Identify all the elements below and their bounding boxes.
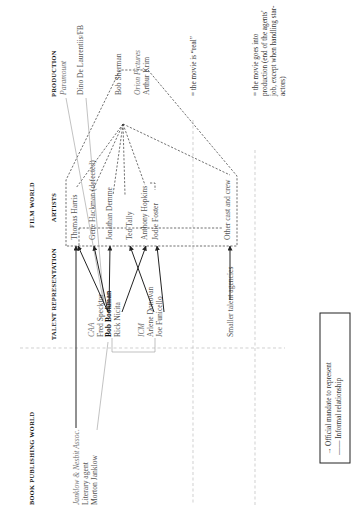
arthur-krim: Arthur Krim: [142, 57, 151, 95]
artist-ted-tally: Ted Tally: [125, 211, 134, 240]
header-artists: Artists: [50, 193, 57, 222]
bob-sherman: Bob Sherman: [114, 53, 123, 95]
header-talent-representation: Talent representation: [50, 248, 57, 340]
janklow-agency: Janklow & Nesbit Assoc.: [72, 429, 81, 505]
dino-de-laurentiis: Dino De Laurentiis/FB: [76, 25, 85, 95]
literary-agent-label: Literary agent: [81, 461, 90, 505]
legend-official: → Official mandate to represent: [325, 362, 333, 455]
milestone-production-4: actors): [279, 76, 287, 96]
film-world-diagram: Book publishing world Film world Talent …: [0, 0, 351, 526]
header-book-publishing: Book publishing world: [28, 411, 35, 505]
legend-informal: —— Informal relationship: [335, 378, 343, 456]
caa-label: CAA: [87, 322, 96, 337]
milestone-production-2: production (end of the agents': [261, 10, 269, 96]
hopkins-foster-bracket: [150, 183, 155, 190]
bookman-to-harris-arrow: [78, 246, 108, 312]
morton-janklow: Morton Janklow: [90, 454, 99, 505]
rick-nicita: Rick Nicita: [113, 302, 122, 337]
artist-thomas-harris: Thomas Harris: [70, 195, 79, 240]
milestone-real: = the movie is “real”: [190, 36, 198, 96]
studio-paramount: Paramount: [59, 60, 68, 96]
production-to-artists-dashes: [76, 124, 230, 195]
studio-orion: Orion Pictures: [133, 50, 142, 95]
janklow-to-bookman-line: [97, 342, 108, 430]
milestone-production-1: = the movie goes into: [252, 33, 260, 96]
header-film-world: Film world: [28, 182, 35, 228]
caa-icm-bracket: [112, 338, 155, 352]
milestone-production-3: job, except when handling star-: [270, 5, 278, 97]
header-production: Production: [50, 50, 57, 97]
artist-anthony-hopkins: Anthony Hopkins: [140, 186, 149, 240]
bob-bookman: Bob Bookman: [104, 290, 113, 337]
artist-other-cast-crew: Other cast and crew: [223, 179, 232, 240]
icm-label: ICM: [137, 322, 146, 338]
artist-jonathan-demme: Jonathan Demme: [105, 186, 114, 240]
artist-jodie-foster: Jodie Foster: [151, 203, 160, 240]
